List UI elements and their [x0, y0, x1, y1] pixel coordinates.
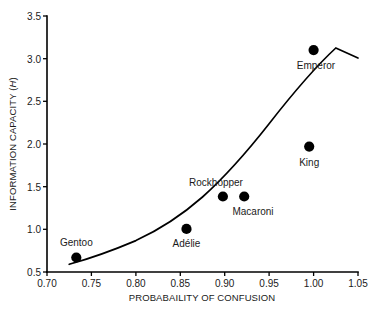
y-axis-tick-labels: 0.5 1.0 1.5 2.0 2.5 3.0 3.5 [27, 11, 41, 278]
y-axis-title: INFORMATION CAPACITY (H) [7, 77, 18, 210]
y-tick-label: 2.5 [27, 96, 41, 107]
data-point-label-gentoo: Gentoo [60, 237, 93, 248]
y-tick-label: 1.0 [27, 224, 41, 235]
scatter-chart: 0.5 1.0 1.5 2.0 2.5 3.0 3.5 0.70 0.75 0.… [0, 0, 372, 314]
y-tick-label: 3.5 [27, 11, 41, 22]
y-tick-label: 2.0 [27, 139, 41, 150]
data-point-adelie [181, 224, 191, 234]
x-tick-label: 0.70 [37, 278, 57, 289]
svg-text:INFORMATION CAPACITY (H): INFORMATION CAPACITY (H) [7, 77, 18, 210]
x-tick-label: 1.00 [304, 278, 324, 289]
x-tick-label: 0.85 [171, 278, 191, 289]
y-tick-label: 3.0 [27, 54, 41, 65]
data-point-label-emperor: Emperor [297, 60, 336, 71]
x-tick-label: 0.90 [215, 278, 235, 289]
y-axis-title-text: INFORMATION CAPACITY ( [7, 87, 18, 211]
data-point-rockhopper [218, 191, 228, 201]
x-tick-label: 0.95 [259, 278, 279, 289]
data-points [71, 45, 319, 263]
data-point-labels: Gentoo Adélie Rockhopper Macaroni King E… [60, 60, 336, 249]
data-point-macaroni [239, 191, 249, 201]
x-tick-label: 0.75 [82, 278, 102, 289]
data-point-label-adelie: Adélie [173, 238, 201, 249]
y-axis-title-symbol: H [7, 81, 18, 88]
x-axis-tick-labels: 0.70 0.75 0.80 0.85 0.90 0.95 1.00 1.05 [37, 278, 368, 289]
x-tick-label: 1.05 [348, 278, 368, 289]
cropped-caption [0, 306, 372, 314]
data-point-label-rockhopper: Rockhopper [189, 177, 244, 188]
figure-container: 0.5 1.0 1.5 2.0 2.5 3.0 3.5 0.70 0.75 0.… [0, 0, 372, 314]
x-axis-title: PROBABAILITY OF CONFUSION [129, 292, 275, 303]
data-point-king [304, 142, 314, 152]
data-point-gentoo [71, 252, 81, 262]
x-tick-label: 0.80 [126, 278, 146, 289]
data-point-label-king: King [299, 157, 319, 168]
y-tick-label: 1.5 [27, 182, 41, 193]
y-tick-label: 0.5 [27, 267, 41, 278]
data-point-emperor [309, 45, 319, 55]
y-axis-title-paren: ) [7, 77, 18, 80]
data-point-label-macaroni: Macaroni [232, 206, 273, 217]
